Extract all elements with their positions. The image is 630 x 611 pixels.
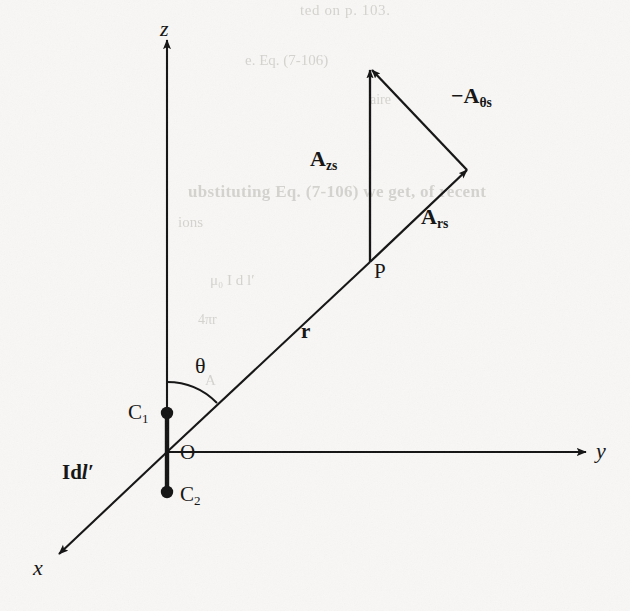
vector-minus-a-theta-s-sign: − (451, 83, 464, 108)
vector-ars-base: A (421, 204, 437, 229)
point-c2-base: C (180, 482, 194, 506)
point-c1-subscript: 1 (142, 411, 149, 426)
point-c2-subscript: 2 (194, 493, 201, 508)
radius-label: r (301, 321, 310, 342)
vector-ars-subscript: rs (437, 216, 448, 231)
current-element-prefix: Id (62, 460, 82, 484)
diagram-canvas (0, 0, 630, 611)
vector-ars-label: Ars (421, 206, 448, 230)
vector-minus-a-theta-s-base: A (464, 83, 480, 108)
point-c1-label: C1 (128, 402, 149, 425)
point-c1-dot (161, 407, 173, 419)
vector-minus-a-theta-s-subscript: θs (479, 95, 491, 110)
point-c2-dot (161, 486, 173, 498)
vector-azs-subscript: zs (326, 158, 337, 173)
current-element-label: Idl′ (62, 462, 94, 483)
theta-arc (167, 382, 217, 403)
x-axis-label: x (33, 557, 43, 579)
theta-angle-label: θ (195, 355, 206, 377)
vector-minus-a-theta-s-label: −Aθs (451, 85, 492, 109)
vector-ars (370, 170, 467, 262)
z-axis-label: z (160, 18, 169, 40)
vector-azs-label: Azs (310, 148, 337, 172)
field-point-label: P (374, 261, 386, 282)
figure-root: ted on p. 103. e. Eq. (7-106) aire ubsti… (0, 0, 630, 611)
y-axis-label: y (596, 440, 606, 462)
point-c1-base: C (128, 400, 142, 424)
current-element-prime: ′ (88, 460, 94, 484)
origin-label: O (180, 442, 195, 463)
point-c2-label: C2 (180, 484, 201, 507)
vector-azs-base: A (310, 146, 326, 171)
